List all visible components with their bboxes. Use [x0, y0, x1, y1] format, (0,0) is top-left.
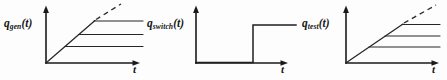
y-axis-label-q-gen: qgen(t)	[4, 18, 32, 31]
y-axis-label-arg-q-gen: (t)	[21, 17, 32, 29]
y-axis-label-arg-q-switch: (t)	[173, 17, 184, 29]
ramp-dashed-extension-q-test	[404, 5, 436, 23]
y-axis-label-q-switch: qswitch(t)	[147, 18, 184, 31]
chart-svg-q-gen	[0, 0, 150, 80]
y-axis-arrowhead-q-switch	[193, 6, 199, 14]
ramp-dashed-extension-q-gen	[96, 4, 121, 20]
chart-panel-q-switch: qswitch(t) t	[145, 0, 300, 80]
y-axis-arrowhead-q-gen	[43, 6, 49, 14]
ramp-line-q-test	[347, 24, 404, 63]
y-axis-arrowhead-q-test	[343, 6, 349, 14]
y-axis-label-sub-q-switch: switch	[153, 22, 173, 31]
chart-svg-q-switch	[145, 0, 300, 80]
chart-panel-q-gen: qgen(t) t	[0, 0, 150, 80]
chart-svg-q-test	[296, 0, 447, 80]
step-line-q-switch	[196, 25, 296, 63]
figure-root: qgen(t) t qswitch(t) t	[0, 0, 447, 80]
x-axis-label-q-gen: t	[133, 64, 136, 75]
chart-panel-q-test: qtest(t) t	[296, 0, 447, 80]
y-axis-label-sub-q-test: test	[308, 22, 319, 31]
y-axis-label-sub-q-gen: gen	[10, 22, 22, 31]
y-axis-label-arg-q-test: (t)	[319, 17, 330, 29]
x-axis-label-q-test: t	[432, 64, 435, 75]
ramp-line-q-gen	[47, 21, 96, 63]
y-axis-label-q-test: qtest(t)	[302, 18, 330, 31]
x-axis-label-q-switch: t	[281, 64, 284, 75]
